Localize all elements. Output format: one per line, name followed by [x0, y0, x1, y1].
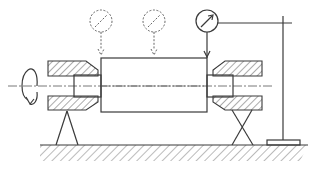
right-housing-bottom [213, 96, 262, 110]
surface-plate [40, 145, 308, 161]
dial-gauge-dashed-2-icon [143, 10, 165, 55]
indicator-stand [267, 16, 300, 145]
workpiece-shaft [101, 58, 207, 112]
dial-gauge-active-icon [196, 10, 292, 58]
shaft-runout-diagram [0, 0, 328, 175]
left-support [56, 111, 78, 145]
rotation-arrow-icon [22, 69, 37, 104]
right-housing-top [213, 61, 262, 76]
diagram-canvas: Shaft runout measurement setup between c… [0, 0, 328, 175]
right-support [232, 110, 253, 145]
dial-gauge-dashed-1-icon [90, 10, 112, 55]
left-housing-top [48, 61, 98, 76]
left-housing-bottom [48, 96, 98, 110]
